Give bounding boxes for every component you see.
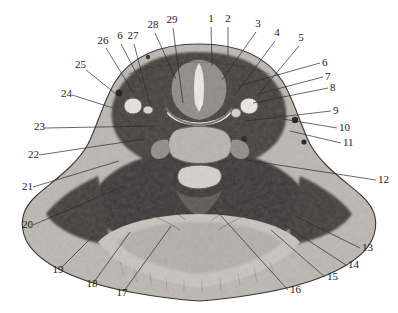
label-number: 20 [22,218,34,230]
label-number: 3 [255,17,261,29]
label-number: 5 [298,31,304,43]
label-number: 15 [327,270,339,282]
anatomical-figure: 1234567891011121314151617181920212223242… [0,0,398,313]
leader-line-25 [86,70,116,94]
label-number: 16 [290,283,302,295]
label-number: 21 [22,180,33,192]
label-number: 22 [28,148,39,160]
cross-section-svg: 1234567891011121314151617181920212223242… [0,0,398,313]
label-number: 26 [98,34,110,46]
label-number: 2 [225,12,231,24]
label-number: 13 [362,241,374,253]
label-number: 9 [333,104,339,116]
label-number: 19 [53,263,65,275]
label-number: 28 [148,18,160,30]
label-number: 27 [128,29,140,41]
label-number: 10 [339,121,351,133]
label-number: 11 [343,136,354,148]
label-number: 6 [322,56,328,68]
label-number: 12 [378,173,389,185]
label-number: 18 [87,277,99,289]
label-number: 25 [75,58,87,70]
label-number: 4 [274,26,280,38]
label-number: 23 [34,120,46,132]
label-number: 14 [348,258,360,270]
label-number: 24 [61,87,73,99]
label-number: 8 [330,81,336,93]
label-number: 1 [208,12,214,24]
label-number: 6 [117,29,123,41]
label-number: 17 [117,286,129,298]
label-number: 29 [167,13,179,25]
